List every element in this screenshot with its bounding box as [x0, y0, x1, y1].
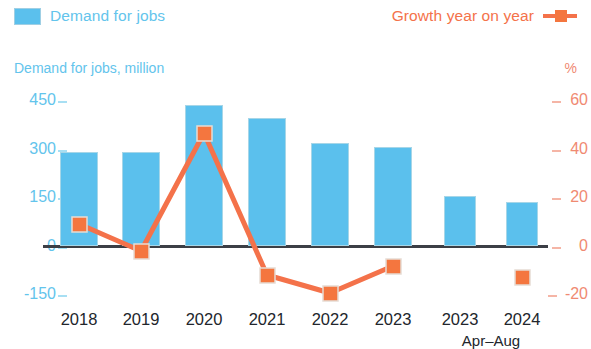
x-label-2018: 2018: [61, 310, 98, 329]
growth-marker-2023: [386, 259, 401, 274]
chart-container: Demand for jobs Growth year on year Dema…: [0, 0, 591, 349]
growth-line-path: [79, 133, 393, 293]
growth-marker-2024-apr-aug: [515, 270, 530, 285]
growth-marker-2020: [197, 126, 212, 141]
growth-marker-2018: [72, 217, 87, 232]
x-label-2023-apr-aug: 2023: [442, 310, 479, 329]
growth-marker-2022: [323, 286, 338, 301]
x-label-2020: 2020: [186, 310, 223, 329]
growth-marker-2021: [260, 268, 275, 283]
x-label-2024-apr-aug: 2024: [504, 310, 541, 329]
x-sublabel-apr-aug: Apr–Aug: [462, 332, 520, 349]
growth-marker-2019: [134, 244, 149, 259]
x-label-2022: 2022: [312, 310, 349, 329]
plot-area: 450 300 150 0 -150 60 40 20 0 -20: [0, 0, 591, 349]
x-label-2023: 2023: [375, 310, 412, 329]
x-label-2021: 2021: [249, 310, 286, 329]
x-label-2019: 2019: [123, 310, 160, 329]
growth-line-series: [0, 0, 591, 349]
